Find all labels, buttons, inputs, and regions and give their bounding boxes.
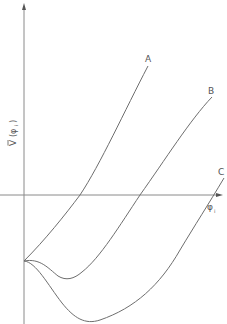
curve-c xyxy=(24,178,224,322)
x-axis-label: φ i xyxy=(207,202,215,214)
x-axis-label-main: φ xyxy=(207,202,213,212)
curve-label-b: B xyxy=(208,86,214,96)
curve-b xyxy=(24,97,212,279)
curve-label-c: C xyxy=(218,167,224,177)
y-axis-label: V (φ i ) xyxy=(8,120,19,146)
x-axis-label-sub: i xyxy=(214,208,215,214)
potential-diagram: A B C φ i V (φ i ) xyxy=(0,0,227,324)
curve-a xyxy=(24,66,148,261)
y-axis-label-main: V xyxy=(8,139,18,146)
y-axis xyxy=(22,3,26,324)
y-axis-label-arg: (φ xyxy=(9,129,18,137)
y-axis-label-sub: i xyxy=(13,125,19,126)
curve-label-a: A xyxy=(145,54,152,64)
x-axis-arrow-icon xyxy=(216,193,223,197)
y-axis-label-close: ) xyxy=(9,120,18,123)
x-axis xyxy=(0,193,223,197)
y-axis-arrow-icon xyxy=(22,3,26,10)
